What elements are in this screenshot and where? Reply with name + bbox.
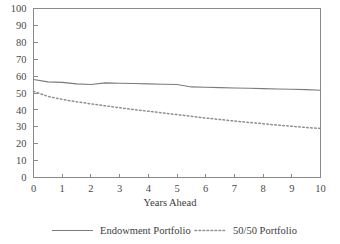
x-tick-label: 1 bbox=[60, 183, 65, 194]
series-endowment-portfolio bbox=[34, 79, 321, 90]
y-tick-label: 70 bbox=[16, 54, 27, 65]
x-tick-label: 10 bbox=[315, 183, 326, 194]
y-tick-label: 30 bbox=[16, 121, 27, 132]
x-tick-label: 6 bbox=[203, 183, 208, 194]
y-tick-label: 10 bbox=[16, 155, 27, 166]
x-tick-label: 7 bbox=[232, 183, 237, 194]
x-tick-label: 5 bbox=[174, 183, 179, 194]
line-chart: 0102030405060708090100 012345678910 Year… bbox=[0, 0, 340, 244]
y-tick-label: 60 bbox=[16, 71, 27, 82]
legend-label-5050-portfolio: 50/50 Portfolio bbox=[233, 225, 297, 236]
y-tick-label: 20 bbox=[16, 138, 27, 149]
y-tick-label: 0 bbox=[21, 172, 26, 183]
x-axis-title: Years Ahead bbox=[144, 197, 198, 208]
x-axis-tick-labels: 012345678910 bbox=[31, 183, 326, 194]
x-tick-label: 9 bbox=[289, 183, 294, 194]
series-5050-portfolio bbox=[34, 91, 321, 128]
x-tick-label: 4 bbox=[146, 183, 152, 194]
y-tick-label: 90 bbox=[16, 20, 27, 31]
chart-legend: Endowment Portfolio 50/50 Portfolio bbox=[52, 225, 297, 236]
y-tick-label: 100 bbox=[11, 3, 27, 14]
y-axis-tick-labels: 0102030405060708090100 bbox=[11, 3, 27, 183]
x-tick-label: 8 bbox=[260, 183, 265, 194]
y-tick-label: 80 bbox=[16, 37, 27, 48]
chart-figure: 0102030405060708090100 012345678910 Year… bbox=[0, 0, 340, 244]
x-tick-label: 0 bbox=[31, 183, 36, 194]
plot-frame bbox=[34, 9, 321, 178]
y-tick-label: 40 bbox=[16, 105, 27, 116]
y-tick-label: 50 bbox=[16, 88, 27, 99]
x-tick-label: 2 bbox=[88, 183, 93, 194]
legend-label-endowment-portfolio: Endowment Portfolio bbox=[100, 225, 191, 236]
axis-tick-marks bbox=[34, 9, 321, 178]
x-tick-label: 3 bbox=[117, 183, 122, 194]
